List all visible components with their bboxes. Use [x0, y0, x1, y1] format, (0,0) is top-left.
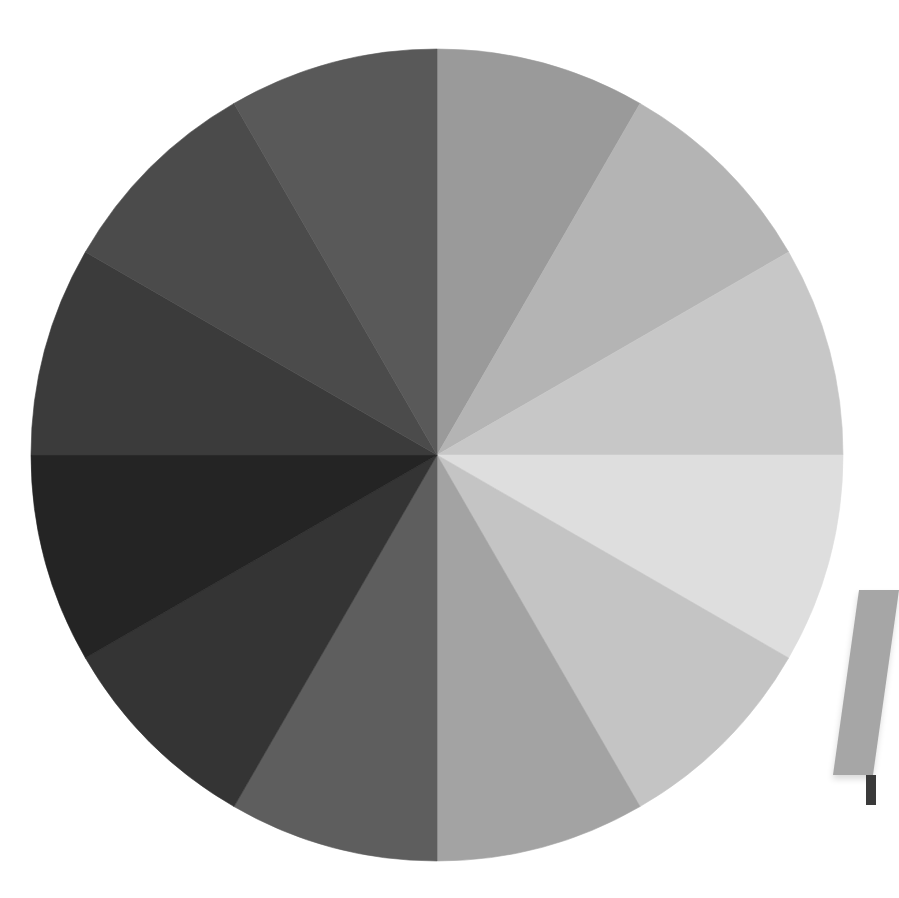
- edge-dark-strip: [866, 775, 876, 805]
- grayscale-value-wheel: [31, 49, 843, 861]
